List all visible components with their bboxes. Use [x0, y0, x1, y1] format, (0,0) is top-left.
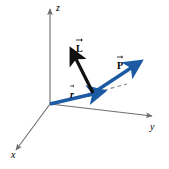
r-vector-overarrow-icon — [70, 83, 74, 88]
p-vector-line — [93, 64, 137, 93]
l-vector-overarrow-icon — [76, 37, 83, 42]
x-axis-line — [16, 104, 50, 150]
axis-lines — [16, 9, 152, 150]
x-axis-label: x — [11, 150, 15, 160]
y-axis-label: y — [150, 122, 154, 132]
r-vector-label-group: r — [70, 84, 74, 102]
p-vector-overarrow-icon — [117, 54, 123, 59]
momentum-vectors — [50, 53, 137, 104]
y-axis-line — [50, 104, 152, 116]
p-vector-label: P — [117, 60, 123, 71]
r-vector-label: r — [70, 89, 74, 100]
l-vector-label-group: L — [76, 38, 83, 56]
l-vector-label: L — [76, 43, 83, 54]
vector-diagram-figure: z y x r P L — [0, 0, 169, 169]
l-vector-line — [73, 53, 93, 93]
z-axis-label: z — [56, 3, 60, 13]
diagram-canvas — [0, 0, 169, 169]
p-vector-label-group: P — [117, 55, 123, 73]
